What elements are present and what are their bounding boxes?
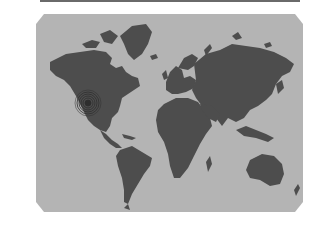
ripple-marker-icon xyxy=(75,90,101,116)
top-bar xyxy=(40,0,300,2)
world-map xyxy=(36,14,303,212)
